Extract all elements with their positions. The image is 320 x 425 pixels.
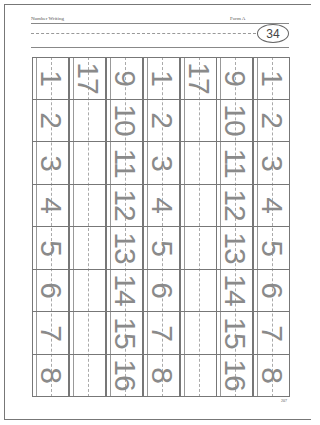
traced-number: 1	[147, 70, 177, 86]
writing-cell[interactable]: 8	[144, 355, 179, 398]
writing-cell[interactable]: 11	[217, 142, 252, 185]
writing-cell[interactable]: 1	[33, 57, 68, 100]
traced-number: 17	[73, 63, 103, 94]
traced-number: 16	[110, 360, 140, 391]
sheet-number-badge: 34	[257, 24, 289, 43]
writing-cell[interactable]: 5	[254, 227, 289, 270]
traced-number: 8	[257, 367, 287, 383]
traced-number: 9	[110, 70, 140, 86]
worksheet-title: Number Writing	[31, 16, 64, 21]
writing-cell[interactable]	[70, 227, 105, 270]
writing-cell[interactable]: 15	[107, 312, 142, 355]
writing-cell[interactable]: 4	[33, 185, 68, 228]
writing-cell[interactable]	[181, 142, 216, 185]
traced-number: 12	[110, 190, 140, 221]
grid-column-3: 910111213141516	[106, 57, 143, 397]
writing-cell[interactable]	[181, 355, 216, 398]
traced-number: 10	[110, 105, 140, 136]
writing-cell[interactable]: 3	[144, 142, 179, 185]
grid-column-1: 12345678	[32, 57, 69, 397]
traced-number: 3	[36, 155, 66, 171]
traced-number: 1	[257, 70, 287, 86]
writing-cell[interactable]: 8	[33, 355, 68, 398]
traced-number: 4	[36, 197, 66, 213]
traced-number: 3	[147, 155, 177, 171]
traced-number: 6	[147, 282, 177, 298]
writing-cell[interactable]: 13	[217, 227, 252, 270]
writing-cell[interactable]: 6	[254, 270, 289, 313]
writing-cell[interactable]	[181, 270, 216, 313]
writing-cell[interactable]: 17	[70, 57, 105, 100]
writing-cell[interactable]: 4	[254, 185, 289, 228]
traced-number: 13	[220, 232, 250, 263]
writing-cell[interactable]: 2	[144, 100, 179, 143]
writing-cell[interactable]	[181, 100, 216, 143]
name-writing-line	[31, 33, 256, 34]
traced-number: 3	[257, 155, 287, 171]
traced-number: 8	[36, 367, 66, 383]
writing-cell[interactable]: 14	[217, 270, 252, 313]
grid-column-6: 910111213141516	[216, 57, 253, 397]
writing-cell[interactable]	[70, 142, 105, 185]
traced-number: 15	[110, 317, 140, 348]
traced-number: 16	[220, 360, 250, 391]
traced-number: 6	[257, 282, 287, 298]
writing-cell[interactable]: 10	[217, 100, 252, 143]
traced-number: 7	[257, 325, 287, 341]
traced-number: 2	[257, 112, 287, 128]
grid-column-7: 12345678	[253, 57, 290, 397]
writing-cell[interactable]: 5	[144, 227, 179, 270]
grid-column-2: 17	[69, 57, 106, 397]
writing-cell[interactable]: 10	[107, 100, 142, 143]
traced-number: 10	[220, 105, 250, 136]
writing-cell[interactable]: 12	[217, 185, 252, 228]
writing-cell[interactable]: 7	[33, 312, 68, 355]
writing-cell[interactable]	[70, 270, 105, 313]
traced-number: 11	[220, 148, 250, 177]
writing-cell[interactable]	[70, 312, 105, 355]
writing-cell[interactable]: 7	[254, 312, 289, 355]
writing-cell[interactable]	[181, 312, 216, 355]
writing-cell[interactable]	[181, 185, 216, 228]
writing-cell[interactable]: 8	[254, 355, 289, 398]
writing-cell[interactable]: 6	[33, 270, 68, 313]
writing-cell[interactable]: 9	[107, 57, 142, 100]
writing-cell[interactable]: 4	[144, 185, 179, 228]
writing-cell[interactable]: 2	[33, 100, 68, 143]
writing-cell[interactable]: 1	[144, 57, 179, 100]
traced-number: 11	[110, 148, 140, 177]
writing-cell[interactable]	[70, 355, 105, 398]
writing-cell[interactable]: 16	[217, 355, 252, 398]
traced-number: 1	[36, 70, 66, 86]
writing-cell[interactable]: 14	[107, 270, 142, 313]
writing-cell[interactable]: 12	[107, 185, 142, 228]
writing-cell[interactable]: 16	[107, 355, 142, 398]
grid-column-5: 17	[180, 57, 217, 397]
traced-number: 5	[257, 240, 287, 256]
traced-number: 14	[110, 275, 140, 306]
writing-cell[interactable]: 11	[107, 142, 142, 185]
writing-cell[interactable]: 15	[217, 312, 252, 355]
writing-cell[interactable]: 6	[144, 270, 179, 313]
writing-cell[interactable]: 9	[217, 57, 252, 100]
writing-cell[interactable]: 3	[254, 142, 289, 185]
writing-cell[interactable]: 5	[33, 227, 68, 270]
writing-cell[interactable]: 2	[254, 100, 289, 143]
writing-cell[interactable]	[70, 185, 105, 228]
writing-cell[interactable]: 1	[254, 57, 289, 100]
traced-number: 6	[36, 282, 66, 298]
traced-number: 5	[147, 240, 177, 256]
traced-number: 5	[36, 240, 66, 256]
tracing-grid: 1234567817910111213141516123456781791011…	[32, 57, 290, 397]
traced-number: 12	[220, 190, 250, 221]
writing-cell[interactable]	[70, 100, 105, 143]
writing-cell[interactable]: 17	[181, 57, 216, 100]
writing-cell[interactable]: 7	[144, 312, 179, 355]
traced-number: 4	[257, 197, 287, 213]
writing-cell[interactable]: 3	[33, 142, 68, 185]
grid-column-4: 12345678	[143, 57, 180, 397]
writing-cell[interactable]	[181, 227, 216, 270]
writing-cell[interactable]: 13	[107, 227, 142, 270]
traced-number: 8	[147, 367, 177, 383]
header-rule	[31, 23, 289, 24]
